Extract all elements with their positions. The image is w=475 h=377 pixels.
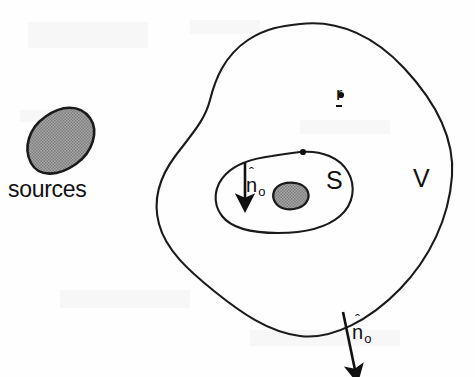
- internal-source-blob: [273, 183, 308, 210]
- figure-root: sources S V r ˆno ˆno: [0, 0, 475, 377]
- outer-normal-subscript: o: [364, 331, 371, 346]
- inner-normal-hat-icon: ˆ: [249, 165, 254, 180]
- volume-label-V: V: [413, 166, 430, 191]
- outer-normal-label: ˆno: [352, 322, 371, 345]
- field-point-label: r: [336, 84, 342, 103]
- inner-normal-subscript: o: [258, 184, 265, 199]
- inner-normal-label: ˆno: [246, 175, 265, 198]
- outer-normal-base: ˆn: [352, 322, 363, 342]
- outer-normal-hat-icon: ˆ: [355, 312, 360, 327]
- surface-label-S: S: [326, 168, 343, 193]
- inner-boundary-dot: [300, 149, 306, 155]
- outer-volume-boundary: [156, 23, 452, 336]
- inner-normal-base: ˆn: [246, 175, 257, 195]
- field-point-vector-r: r: [336, 83, 342, 107]
- external-sources-label: sources: [8, 178, 86, 201]
